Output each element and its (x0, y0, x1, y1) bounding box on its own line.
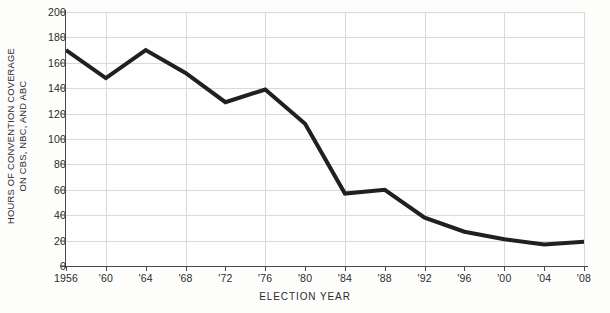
x-tick-label: '84 (323, 272, 367, 284)
x-tick-mark (345, 266, 346, 271)
x-tick-label: '76 (243, 272, 287, 284)
x-tick-mark (504, 266, 505, 271)
x-tick-mark (464, 266, 465, 271)
x-tick-mark (146, 266, 147, 271)
x-tick-mark (225, 266, 226, 271)
convention-coverage-line-chart: HOURS OF CONVENTION COVERAGE ON CBS, NBC… (0, 0, 610, 313)
x-tick-label: '88 (363, 272, 407, 284)
x-axis-ticks: 1956'60'64'68'72'76'80'84'88'92'96'00'04… (0, 0, 610, 313)
x-tick-mark (544, 266, 545, 271)
x-tick-label: '80 (283, 272, 327, 284)
x-tick-mark (425, 266, 426, 271)
x-tick-mark (385, 266, 386, 271)
x-tick-mark (66, 266, 67, 271)
x-tick-label: '92 (403, 272, 447, 284)
x-tick-label: '60 (84, 272, 128, 284)
x-tick-mark (265, 266, 266, 271)
x-tick-label: '64 (124, 272, 168, 284)
x-tick-mark (186, 266, 187, 271)
x-tick-label: '68 (164, 272, 208, 284)
x-tick-mark (106, 266, 107, 271)
x-tick-mark (584, 266, 585, 271)
x-tick-mark (305, 266, 306, 271)
x-tick-label: '72 (203, 272, 247, 284)
x-tick-label: '96 (442, 272, 486, 284)
x-tick-label: 1956 (44, 272, 88, 284)
x-tick-label: '00 (482, 272, 526, 284)
x-axis-title: ELECTION YEAR (0, 291, 610, 302)
x-tick-label: '04 (522, 272, 566, 284)
x-tick-label: '08 (562, 272, 606, 284)
